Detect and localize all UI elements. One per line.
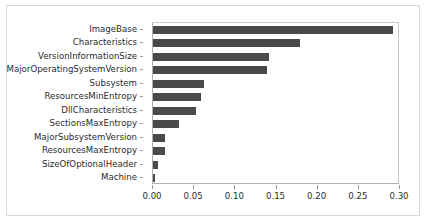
x-tick-mark xyxy=(399,185,400,189)
y-tick-mark xyxy=(140,69,144,70)
bar-row xyxy=(153,26,398,34)
y-tick-mark xyxy=(140,110,144,111)
x-tick-label-0.25: 0.25 xyxy=(348,191,367,201)
y-tick-label-ResourcesMinEntropy: ResourcesMinEntropy xyxy=(44,91,137,101)
y-tick-label-DllCharacteristics: DllCharacteristics xyxy=(61,105,137,115)
y-tick-mark xyxy=(140,42,144,43)
figure-container: ImageBaseCharacteristicsVersionInformati… xyxy=(0,0,426,222)
bar-SectionsMaxEntropy xyxy=(153,120,179,128)
y-tick-mark xyxy=(140,56,144,57)
x-tick-label-0.20: 0.20 xyxy=(307,191,326,201)
bar-row xyxy=(153,53,398,61)
x-tick-label-0.10: 0.10 xyxy=(225,191,244,201)
bar-row xyxy=(153,39,398,47)
bar-MajorOperatingSystemVersion xyxy=(153,66,267,74)
bar-SizeOfOptionalHeader xyxy=(153,161,158,169)
bar-row xyxy=(153,120,398,128)
y-tick-label-Characteristics: Characteristics xyxy=(73,37,137,47)
x-tick-mark xyxy=(234,185,235,189)
bar-row xyxy=(153,147,398,155)
bar-row xyxy=(153,107,398,115)
x-tick-label-0.00: 0.00 xyxy=(142,191,161,201)
y-tick-mark xyxy=(140,96,144,97)
x-tick-mark xyxy=(317,185,318,189)
y-tick-mark xyxy=(140,137,144,138)
y-tick-mark xyxy=(140,123,144,124)
y-tick-mark xyxy=(140,177,144,178)
x-tick-mark xyxy=(193,185,194,189)
x-tick-mark xyxy=(152,185,153,189)
bar-ImageBase xyxy=(153,26,393,34)
bars-layer xyxy=(153,23,398,183)
y-tick-mark xyxy=(140,150,144,151)
bar-row xyxy=(153,66,398,74)
y-tick-label-Machine: Machine xyxy=(101,172,137,182)
y-tick-label-ImageBase: ImageBase xyxy=(89,24,137,34)
bar-ResourcesMinEntropy xyxy=(153,93,201,101)
y-tick-label-SizeOfOptionalHeader: SizeOfOptionalHeader xyxy=(42,159,137,169)
y-tick-label-MajorOperatingSystemVersion: MajorOperatingSystemVersion xyxy=(7,64,137,74)
y-tick-mark xyxy=(140,164,144,165)
bar-row xyxy=(153,161,398,169)
x-axis-tick-labels: 0.000.050.100.150.200.250.30 xyxy=(152,185,399,205)
y-axis-tick-labels: ImageBaseCharacteristicsVersionInformati… xyxy=(7,22,147,184)
bar-row xyxy=(153,134,398,142)
bar-MajorSubsystemVersion xyxy=(153,134,165,142)
bar-row xyxy=(153,93,398,101)
x-tick-label-0.05: 0.05 xyxy=(184,191,203,201)
bar-Characteristics xyxy=(153,39,300,47)
bar-row xyxy=(153,80,398,88)
bar-Machine xyxy=(153,174,155,182)
y-tick-label-MajorSubsystemVersion: MajorSubsystemVersion xyxy=(34,132,137,142)
bar-ResourcesMaxEntropy xyxy=(153,147,165,155)
bar-VersionInformationSize xyxy=(153,53,269,61)
y-tick-mark xyxy=(140,29,144,30)
y-tick-label-Subsystem: Subsystem xyxy=(90,78,137,88)
y-tick-label-ResourcesMaxEntropy: ResourcesMaxEntropy xyxy=(42,145,137,155)
x-tick-mark xyxy=(276,185,277,189)
x-tick-label-0.15: 0.15 xyxy=(266,191,285,201)
bar-Subsystem xyxy=(153,80,204,88)
bar-row xyxy=(153,174,398,182)
plot-area xyxy=(152,22,399,184)
x-tick-label-0.30: 0.30 xyxy=(389,191,408,201)
y-tick-label-VersionInformationSize: VersionInformationSize xyxy=(38,51,137,61)
x-tick-mark xyxy=(358,185,359,189)
y-tick-label-SectionsMaxEntropy: SectionsMaxEntropy xyxy=(49,118,137,128)
figure-frame: ImageBaseCharacteristicsVersionInformati… xyxy=(6,5,420,216)
bar-DllCharacteristics xyxy=(153,107,196,115)
y-tick-mark xyxy=(140,83,144,84)
